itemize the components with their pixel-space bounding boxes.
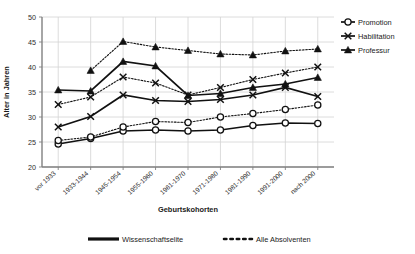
- series-line-alle-absolventen-professur: [91, 42, 318, 71]
- data-point-circle-icon: [152, 127, 158, 133]
- y-tick-label: 20: [28, 163, 36, 172]
- x-tick-label-group: 1961-1970: [159, 169, 187, 196]
- legend-bottom-item-alle-absolventen[interactable]: Alle Absolventen: [224, 235, 311, 244]
- x-tick-label: 1945-1954: [94, 169, 122, 196]
- x-tick-label: vor 1933: [33, 169, 57, 192]
- legend-bottom-label: Wissenschaftselite: [122, 235, 183, 244]
- line-chart: 50454035302520vor 19331933-19441945-1954…: [0, 0, 415, 254]
- y-tick-label: 50: [28, 13, 36, 22]
- legend-item-professur[interactable]: Professur: [341, 46, 390, 55]
- legend-label: Habilitation: [358, 32, 395, 41]
- data-point-circle-icon: [152, 118, 158, 124]
- data-point-circle-icon: [185, 128, 191, 134]
- x-tick-label: 1955-1960: [126, 169, 154, 196]
- x-tick-label-group: vor 1933: [33, 169, 57, 192]
- data-point-circle-icon: [315, 102, 321, 108]
- x-axis-title: Geburtskohorten: [158, 205, 218, 214]
- data-point-circle-icon: [217, 114, 223, 120]
- legend-bottom-label: Alle Absolventen: [256, 235, 311, 244]
- x-tick-label: 1981-1990: [223, 169, 251, 196]
- data-point-circle-icon: [55, 137, 61, 143]
- x-tick-label-group: nach 2000: [289, 169, 317, 195]
- x-tick-label: 1971-1980: [191, 169, 219, 196]
- x-tick-label-group: 1945-1954: [94, 169, 122, 196]
- y-axis-title: Alter in Jahren: [2, 66, 11, 118]
- legend-item-promotion[interactable]: Promotion: [341, 18, 392, 27]
- legend-bottom-item-wissenschaftselite[interactable]: Wissenschaftselite: [88, 235, 183, 244]
- x-tick-label-group: 1971-1980: [191, 169, 219, 196]
- y-tick-label: 40: [28, 63, 36, 72]
- legend-label: Professur: [358, 46, 390, 55]
- x-tick-label-group: 1955-1960: [126, 169, 154, 196]
- series-markers-alle-absolventen-professur: [87, 38, 321, 73]
- data-point-triangle-icon: [120, 38, 127, 44]
- y-tick-label: 45: [28, 38, 36, 47]
- data-point-circle-icon: [250, 110, 256, 116]
- legend-item-habilitation[interactable]: Habilitation: [341, 32, 395, 41]
- legend-marker-circle-icon: [345, 19, 351, 25]
- data-point-circle-icon: [250, 122, 256, 128]
- y-tick-label: 30: [28, 113, 36, 122]
- x-tick-label: 1933-1944: [61, 169, 89, 196]
- data-point-circle-icon: [282, 106, 288, 112]
- data-point-circle-icon: [282, 120, 288, 126]
- data-point-circle-icon: [315, 120, 321, 126]
- data-point-circle-icon: [217, 127, 223, 133]
- y-tick-label: 35: [28, 88, 36, 97]
- data-point-circle-icon: [88, 134, 94, 140]
- x-tick-label: 1961-1970: [159, 169, 187, 196]
- x-tick-label: 1991-2000: [256, 169, 284, 196]
- data-point-circle-icon: [120, 124, 126, 130]
- x-tick-label-group: 1933-1944: [61, 169, 89, 196]
- y-axis-title-group: Alter in Jahren: [2, 66, 11, 118]
- x-tick-label-group: 1991-2000: [256, 169, 284, 196]
- y-tick-label: 25: [28, 138, 36, 147]
- legend-label: Promotion: [358, 18, 392, 27]
- x-tick-label-group: 1981-1990: [223, 169, 251, 196]
- chart-container: 50454035302520vor 19331933-19441945-1954…: [0, 0, 415, 254]
- data-point-circle-icon: [185, 119, 191, 125]
- x-tick-label: nach 2000: [289, 169, 317, 195]
